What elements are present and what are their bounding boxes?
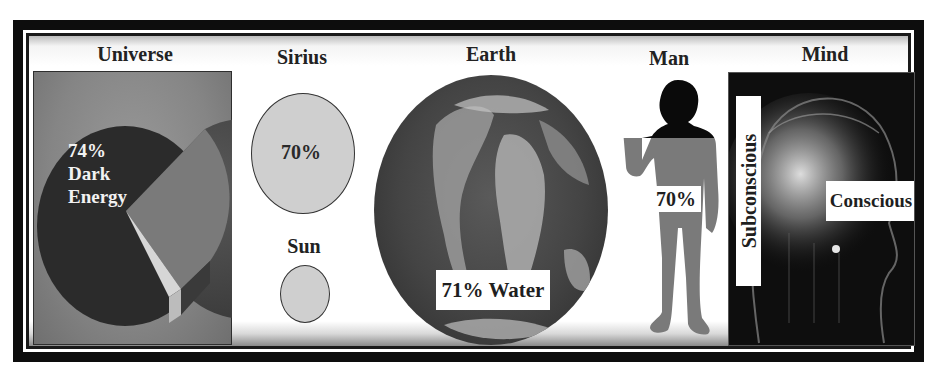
earth-title: Earth (450, 42, 532, 66)
subconscious-label: Subconscious (736, 96, 761, 286)
man-value: 70% (651, 186, 701, 212)
universe-title: Universe (80, 42, 190, 66)
pie-chart-icon (33, 71, 232, 345)
sirius-title: Sirius (262, 45, 342, 69)
earth-water-label: 71% Water (436, 270, 550, 310)
pie-label: 74% Dark Energy (68, 139, 127, 208)
mind-title: Mind (795, 42, 855, 66)
mind-image: Subconscious Conscious (728, 72, 915, 346)
sun-title: Sun (279, 234, 329, 258)
conscious-label: Conscious (826, 181, 915, 221)
universe-image: 74% Dark Energy (33, 71, 232, 345)
sirius-value: 70% (281, 141, 321, 164)
pie-label-line2: Energy (68, 185, 127, 208)
sun-sphere (280, 265, 330, 323)
subconscious-text: Subconscious (737, 134, 760, 249)
man-title: Man (641, 46, 697, 70)
pie-label-percent: 74% (68, 139, 127, 162)
pie-label-line1: Dark (68, 162, 127, 185)
